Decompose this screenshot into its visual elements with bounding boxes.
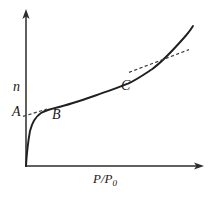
plot-canvas [0, 0, 213, 198]
annotation-label-a: A [12, 105, 21, 119]
annotation-label-b: B [52, 108, 61, 122]
upper-tangent-dashed-line [129, 50, 189, 73]
x-axis-label-main: P/P [93, 171, 113, 186]
x-axis-label: P/P0 [93, 172, 117, 188]
annotation-label-c: C [121, 79, 130, 93]
isotherm-curve [26, 26, 193, 166]
y-axis-label: n [13, 80, 20, 94]
adsorption-isotherm-figure: n A B C P/P0 [0, 0, 213, 198]
x-axis-label-subscript: 0 [113, 178, 118, 188]
